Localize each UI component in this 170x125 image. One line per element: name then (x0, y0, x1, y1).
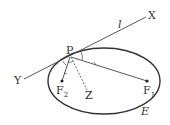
label-E: E (141, 106, 149, 117)
focus-F2 (60, 79, 63, 82)
label-F1: F1 (143, 85, 155, 99)
label-Y: Y (14, 75, 21, 86)
angle-mark-right (81, 52, 82, 60)
segment-PF1 (71, 57, 147, 81)
label-F2-subscript: 2 (64, 91, 68, 99)
focus-F1 (145, 79, 148, 82)
ellipse-tangent-diagram: X l Y P F2 Z F1 E (0, 0, 170, 125)
label-F1-subscript: 1 (151, 91, 155, 99)
tangent-line-l (24, 17, 146, 79)
segment-PF2 (62, 57, 70, 81)
label-F1-text: F (143, 84, 151, 97)
normal-line-PZ (71, 57, 87, 90)
label-F2-text: F (56, 84, 64, 97)
angle-mark-left (63, 61, 66, 65)
label-l: l (118, 19, 122, 30)
label-X: X (148, 10, 156, 21)
label-F2: F2 (56, 85, 68, 99)
label-P: P (66, 45, 73, 56)
label-Z: Z (85, 90, 93, 101)
